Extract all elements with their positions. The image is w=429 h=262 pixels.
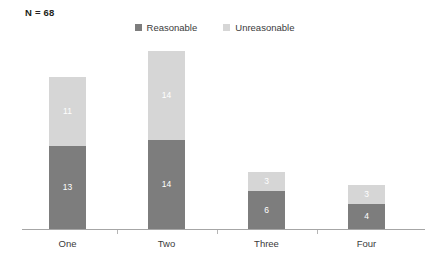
- bar-segment[interactable]: 3: [248, 172, 285, 191]
- stacked-bar-chart: N = 68 Reasonable Unreasonable 111314143…: [0, 0, 429, 262]
- bar-group[interactable]: 1113: [49, 77, 86, 229]
- bar-group[interactable]: 34: [348, 185, 385, 229]
- bar-value-label: 6: [264, 206, 269, 215]
- bar-group[interactable]: 1414: [148, 51, 185, 229]
- bar-value-label: 3: [264, 177, 269, 186]
- bar-segment[interactable]: 4: [348, 204, 385, 229]
- x-axis-baseline: [22, 229, 425, 230]
- bar-value-label: 11: [63, 107, 72, 116]
- category-label: Two: [122, 238, 212, 249]
- bar-value-label: 4: [364, 212, 369, 221]
- category-label: One: [23, 238, 113, 249]
- bar-segment[interactable]: 3: [348, 185, 385, 204]
- bar-segment[interactable]: 11: [49, 77, 86, 147]
- bar-group[interactable]: 36: [248, 172, 285, 229]
- bar-value-label: 13: [63, 183, 72, 192]
- axis-tick: [317, 230, 318, 234]
- category-label: Three: [222, 238, 312, 249]
- bar-value-label: 14: [162, 180, 171, 189]
- bar-segment[interactable]: 13: [49, 146, 86, 229]
- axis-tick: [217, 230, 218, 234]
- axis-tick: [117, 230, 118, 234]
- plot-area: 111314143634 OneTwoThreeFour: [0, 0, 429, 262]
- category-label: Four: [322, 238, 412, 249]
- bar-segment[interactable]: 14: [148, 51, 185, 140]
- bar-value-label: 14: [162, 91, 171, 100]
- bar-segment[interactable]: 14: [148, 140, 185, 229]
- bar-segment[interactable]: 6: [248, 191, 285, 229]
- bar-value-label: 3: [364, 190, 369, 199]
